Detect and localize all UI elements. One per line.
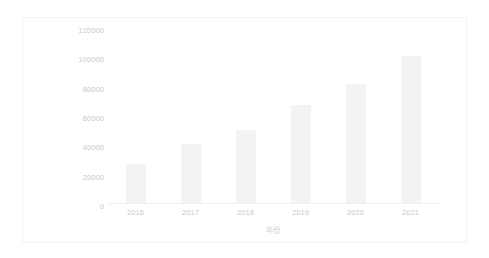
bar-2020 xyxy=(346,84,366,203)
bar-2021 xyxy=(401,56,421,203)
x-tick-label: 2018 xyxy=(218,207,273,221)
bar-slot xyxy=(163,27,218,203)
x-axis-ticks: 2016 2017 2018 2019 2020 2021 xyxy=(108,207,438,221)
x-tick-label: 2019 xyxy=(273,207,328,221)
y-tick-label: 0 xyxy=(44,203,104,211)
x-tick-label: 2020 xyxy=(328,207,383,221)
bar-series xyxy=(108,27,438,203)
bar-2017 xyxy=(181,144,201,203)
bar-slot xyxy=(383,27,438,203)
y-tick-label: 60000 xyxy=(44,115,104,123)
chart-figure: 销售、行政及一般费用/万美元 120000 100000 80000 60000… xyxy=(0,0,489,258)
bar-2016 xyxy=(126,164,146,203)
y-tick-label: 40000 xyxy=(44,144,104,152)
x-tick-label: 2021 xyxy=(383,207,438,221)
bar-2018 xyxy=(236,130,256,203)
y-tick-label: 80000 xyxy=(44,86,104,94)
y-tick-label: 120000 xyxy=(44,27,104,35)
bar-2019 xyxy=(291,105,311,203)
bar-slot xyxy=(273,27,328,203)
y-axis-ticks: 120000 100000 80000 60000 40000 20000 0 xyxy=(42,27,104,203)
bar-slot xyxy=(328,27,383,203)
bar-slot xyxy=(108,27,163,203)
bar-slot xyxy=(218,27,273,203)
y-tick-label: 100000 xyxy=(44,56,104,64)
x-tick-label: 2016 xyxy=(108,207,163,221)
plot-area xyxy=(108,27,438,203)
x-axis-title: 年份 xyxy=(108,224,438,235)
y-tick-label: 20000 xyxy=(44,174,104,182)
x-tick-label: 2017 xyxy=(163,207,218,221)
x-axis-line xyxy=(108,203,438,204)
